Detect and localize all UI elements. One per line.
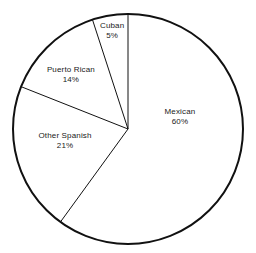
pie-label-cuban: Cuban 5% bbox=[100, 21, 124, 41]
pie-label-name: Cuban bbox=[100, 21, 124, 31]
pie-label-value: 21% bbox=[38, 141, 91, 151]
pie-label-puerto-rican: Puerto Rican 14% bbox=[47, 65, 95, 85]
pie-chart-graphic bbox=[0, 0, 256, 253]
pie-chart: Mexican 60% Other Spanish 21% Puerto Ric… bbox=[0, 0, 256, 253]
pie-label-name: Mexican bbox=[165, 107, 196, 117]
pie-label-other-spanish: Other Spanish 21% bbox=[38, 131, 91, 151]
pie-label-name: Other Spanish bbox=[38, 131, 91, 141]
pie-label-name: Puerto Rican bbox=[47, 65, 95, 75]
pie-label-mexican: Mexican 60% bbox=[165, 107, 196, 127]
pie-label-value: 14% bbox=[47, 75, 95, 85]
pie-label-value: 60% bbox=[165, 117, 196, 127]
pie-label-value: 5% bbox=[100, 31, 124, 41]
